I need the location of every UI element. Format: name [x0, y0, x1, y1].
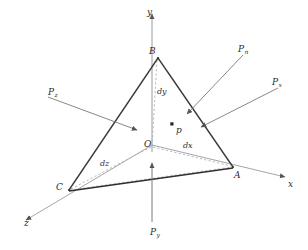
force-py-base: P	[150, 227, 156, 237]
force-py-subscript: y	[157, 231, 160, 238]
force-label-pz: Pz	[48, 88, 57, 97]
force-pn-arrow	[187, 55, 243, 114]
vertex-label-c: C	[56, 183, 63, 192]
edge-o-b-dashed	[152, 60, 157, 146]
stress-tetrahedron-figure: y x z O B A C p dy dx dz Pn Px Pz Py	[0, 0, 308, 250]
dimension-label-dz: dz	[100, 160, 109, 168]
dimension-label-dx: dx	[183, 142, 193, 150]
axis-label-x: x	[288, 180, 293, 189]
force-pn-subscript: n	[245, 48, 249, 55]
vertex-label-b: B	[149, 47, 156, 56]
edge-o-c-dashed	[71, 147, 151, 189]
force-pz-base: P	[48, 87, 54, 97]
edge-b-a	[158, 58, 233, 167]
axis-label-y: y	[147, 8, 152, 17]
dimension-label-dy: dy	[157, 88, 167, 96]
force-px-base: P	[272, 77, 278, 87]
origin-label: O	[144, 140, 151, 149]
force-pz-subscript: z	[55, 91, 58, 98]
x-axis-line	[152, 145, 285, 177]
force-px-arrow	[201, 88, 278, 127]
force-pz-arrow	[48, 97, 137, 130]
hidden-edges-group	[70, 60, 232, 190]
axis-label-z: z	[24, 219, 29, 228]
force-label-pn: Pn	[238, 45, 248, 54]
edge-b-c	[69, 58, 158, 190]
force-px-subscript: x	[279, 81, 282, 88]
force-label-py: Py	[150, 228, 159, 237]
vertex-b-dot	[157, 57, 159, 59]
force-label-px: Px	[272, 78, 281, 87]
force-pn-base: P	[238, 44, 244, 54]
edge-c-a-dashed	[70, 167, 232, 190]
vertex-c-dot	[68, 189, 70, 191]
force-arrows-group	[48, 55, 278, 222]
tetrahedron-outline	[69, 58, 233, 191]
interior-point-label: p	[176, 126, 182, 135]
figure-canvas	[0, 0, 308, 250]
vertex-label-a: A	[234, 171, 241, 180]
interior-point-marker	[170, 122, 173, 125]
vertex-a-dot	[232, 166, 234, 168]
